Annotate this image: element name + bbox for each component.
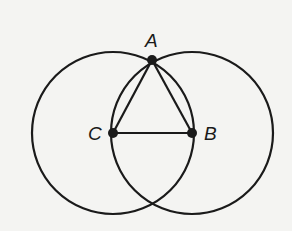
- construction-diagram: A C B: [0, 0, 292, 231]
- label-a: A: [144, 30, 158, 51]
- label-c: C: [88, 123, 102, 144]
- label-b: B: [204, 123, 217, 144]
- point-c: [108, 128, 118, 138]
- point-b: [187, 128, 197, 138]
- point-a: [147, 55, 157, 65]
